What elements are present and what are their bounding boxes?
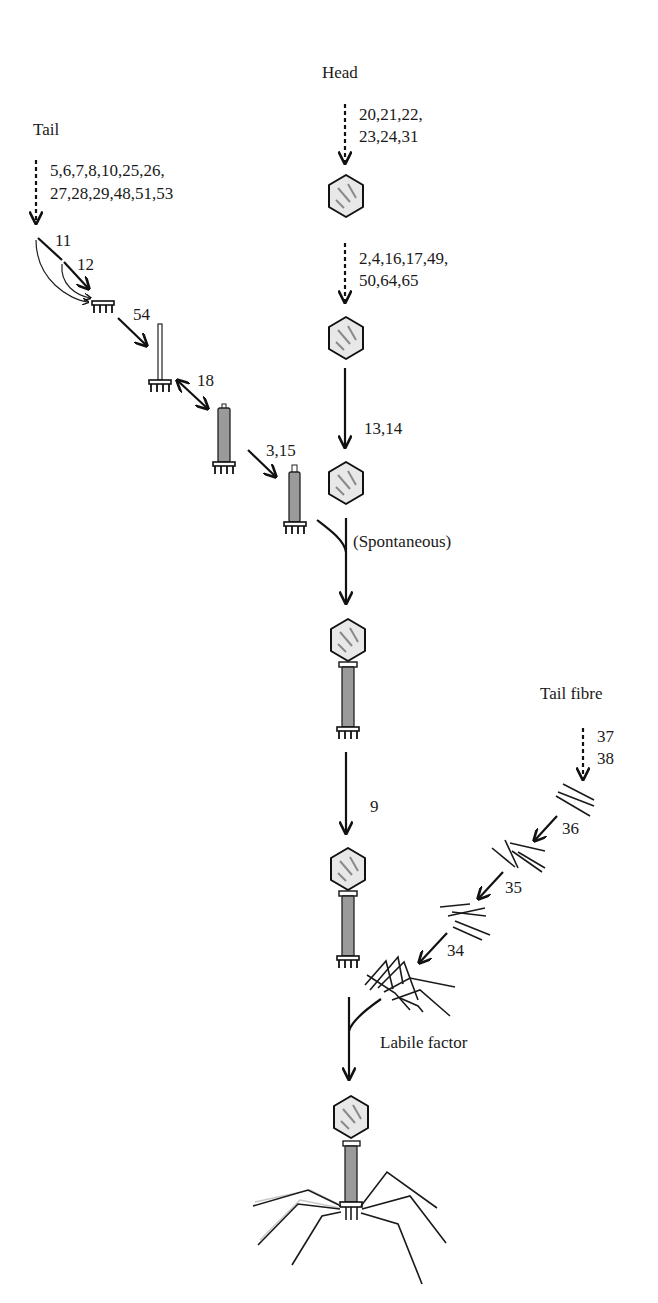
tail-genes-12: 12 (77, 255, 94, 274)
tail-genes-11: 11 (55, 231, 71, 250)
baseplate-icon (92, 301, 114, 313)
tail-genes-1b: 27,28,29,48,51,53 (50, 184, 173, 203)
headed-phage-icon (331, 619, 365, 739)
head-label: Head (322, 63, 358, 82)
whole-fibre-icon (440, 904, 490, 940)
head-genes-1a: 20,21,22, (359, 105, 423, 124)
head-genes-2b: 50,64,65 (359, 271, 419, 290)
fibre-segment-icon (556, 784, 594, 816)
fibre-genes-35: 35 (505, 878, 522, 897)
prohead-icon (329, 175, 363, 217)
fibre-genes-38: 38 (597, 749, 614, 768)
head-genes-3: 13,14 (364, 419, 403, 438)
mature-head-icon (329, 462, 363, 504)
t4-assembly-diagram: Head 20,21,22, 23,24,31 2,4,16,17,49, 50… (0, 0, 658, 1303)
join-line-icon (317, 520, 346, 552)
tail-genes-1a: 5,6,7,8,10,25,26, (50, 161, 165, 180)
join-line-icon (349, 999, 381, 1031)
fibre-genes-34: 34 (447, 941, 465, 960)
filled-head-icon (329, 317, 363, 359)
fibre-genes-37: 37 (597, 727, 615, 746)
tail-genes-3-15: 3,15 (266, 441, 296, 460)
tail-genes-18: 18 (197, 371, 214, 390)
completed-tail-icon (289, 472, 300, 522)
tail-branch: Tail 5,6,7,8,10,25,26, 27,28,29,48,51,53… (33, 120, 306, 534)
baseplate-icon (284, 522, 306, 534)
complete-phage-icon (253, 1096, 446, 1284)
solid-arrow-icon (535, 816, 557, 840)
head-genes-1b: 23,24,31 (359, 127, 419, 146)
tail-fibre-label: Tail fibre (540, 684, 603, 703)
solid-arrow-icon (420, 933, 447, 962)
fibre-genes-36: 36 (562, 819, 579, 838)
fibre-cluster-icon (365, 957, 455, 1016)
baseplate-icon (213, 462, 235, 474)
baseplate-icon (149, 380, 171, 392)
head-genes-2a: 2,4,16,17,49, (359, 249, 448, 268)
fibre-attachment: Labile factor (253, 997, 468, 1284)
spontaneous-label: (Spontaneous) (353, 532, 451, 551)
fibreless-phage-icon (331, 848, 365, 968)
tail-genes-54: 54 (133, 305, 151, 324)
head-branch: Head 20,21,22, 23,24,31 2,4,16,17,49, 50… (322, 63, 448, 504)
solid-arrow-icon (479, 872, 503, 898)
tail-fibre-branch: Tail fibre 37 38 36 35 (365, 684, 615, 1016)
sheathed-tail-icon (218, 408, 230, 462)
head-tail-join: (Spontaneous) 9 (317, 518, 451, 968)
labile-factor-label: Labile factor (380, 1033, 468, 1052)
tail-label: Tail (33, 120, 59, 139)
half-fibre-icon (492, 840, 545, 872)
neck-gene-9: 9 (370, 797, 379, 816)
core-tube-icon (158, 324, 162, 380)
